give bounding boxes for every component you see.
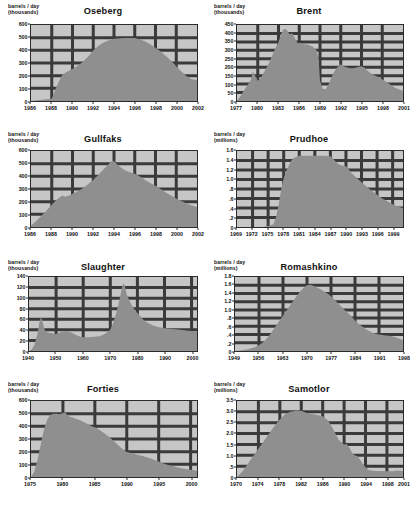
y-tick-mark	[234, 159, 236, 160]
x-tick-mark	[28, 352, 29, 354]
x-tick-mark	[30, 228, 31, 230]
x-tick-label: 1986	[317, 481, 329, 487]
y-tick-mark	[234, 466, 236, 467]
y-tick-label: .2	[229, 215, 233, 221]
x-tick-label: 1995	[356, 105, 368, 111]
y-tick-mark	[28, 24, 30, 25]
x-tick-label: 1990	[121, 481, 133, 487]
x-tick-mark	[366, 478, 367, 480]
x-tick-mark	[301, 478, 302, 480]
y-tick-mark	[28, 50, 30, 51]
y-tick-mark	[232, 309, 234, 310]
x-tick-mark	[404, 478, 405, 480]
x-tick-label: 1980	[56, 481, 68, 487]
x-tick-mark	[331, 352, 332, 354]
x-tick-label: 1985	[89, 481, 101, 487]
y-tick-mark	[26, 276, 28, 277]
plot-area-samotlor: 0.51.01.52.02.53.03.51970197419781982198…	[236, 400, 404, 478]
y-tick-mark	[234, 444, 236, 445]
x-tick-label: 1998	[377, 105, 389, 111]
y-tick-mark	[234, 50, 236, 51]
x-tick-label: 1970	[230, 481, 242, 487]
y-tick-mark	[232, 326, 234, 327]
x-tick-mark	[330, 228, 331, 230]
y-tick-label: .2	[227, 341, 231, 347]
x-tick-mark	[346, 228, 347, 230]
chart-grid: barrels / day (thousands)Oseberg01002003…	[0, 0, 412, 505]
x-tick-mark	[191, 478, 192, 480]
y-tick-label: 1.2	[224, 298, 231, 304]
x-tick-label: 1992	[335, 105, 347, 111]
y-tick-label: 200	[19, 73, 28, 79]
y-tick-label: 60	[20, 316, 26, 322]
x-tick-label: 1978	[273, 481, 285, 487]
y-tick-label: 300	[19, 60, 28, 66]
plot-area-prudhoe: 0.2.4.6.81.01.21.41.61969197219751978198…	[236, 150, 404, 228]
x-tick-mark	[320, 102, 321, 104]
x-tick-mark	[94, 478, 95, 480]
x-tick-label: 1984	[309, 231, 321, 237]
x-tick-mark	[393, 228, 394, 230]
x-tick-label: 1980	[251, 105, 263, 111]
y-tick-label: 1.5	[226, 442, 233, 448]
x-tick-label: 1992	[87, 231, 99, 237]
y-tick-mark	[234, 422, 236, 423]
y-tick-mark	[232, 318, 234, 319]
x-tick-mark	[82, 352, 83, 354]
y-tick-label: 1.4	[224, 290, 231, 296]
x-tick-mark	[362, 102, 363, 104]
y-tick-label: 1.2	[226, 167, 233, 173]
x-tick-mark	[283, 228, 284, 230]
x-tick-label: 1978	[277, 231, 289, 237]
y-tick-mark	[28, 76, 30, 77]
chart-title-samotlor: Samotlor	[206, 384, 412, 394]
x-tick-label: 1990	[66, 231, 78, 237]
y-tick-label: 600	[19, 397, 28, 403]
plot-canvas-prudhoe	[236, 150, 404, 228]
x-tick-mark	[257, 102, 258, 104]
y-tick-mark	[234, 67, 236, 68]
x-tick-mark	[156, 102, 157, 104]
y-tick-label: 1.0	[226, 453, 233, 459]
plot-canvas-samotlor	[236, 400, 404, 478]
y-tick-mark	[232, 284, 234, 285]
x-tick-label: 2002	[192, 231, 204, 237]
y-tick-mark	[28, 189, 30, 190]
x-tick-label: 1982	[295, 481, 307, 487]
x-tick-label: 1974	[252, 481, 264, 487]
y-tick-mark	[26, 297, 28, 298]
x-tick-label: 1998	[398, 355, 410, 361]
x-tick-mark	[55, 352, 56, 354]
y-tick-label: 120	[17, 284, 26, 290]
y-tick-mark	[26, 330, 28, 331]
y-tick-mark	[234, 179, 236, 180]
x-tick-mark	[135, 102, 136, 104]
x-tick-mark	[51, 228, 52, 230]
y-tick-label: .8	[229, 186, 233, 192]
y-tick-label: 3.5	[226, 397, 233, 403]
x-tick-label: 1986	[293, 105, 305, 111]
y-tick-mark	[26, 341, 28, 342]
x-tick-mark	[299, 228, 300, 230]
y-tick-label: 300	[19, 186, 28, 192]
x-tick-mark	[234, 352, 235, 354]
x-tick-mark	[236, 478, 237, 480]
y-tick-mark	[234, 76, 236, 77]
x-tick-mark	[198, 102, 199, 104]
chart-title-prudhoe: Prudhoe	[206, 134, 412, 144]
x-tick-label: 1963	[277, 355, 289, 361]
x-tick-mark	[282, 352, 283, 354]
x-tick-label: 1970	[301, 355, 313, 361]
x-tick-mark	[165, 352, 166, 354]
chart-title-gullfaks: Gullfaks	[0, 134, 206, 144]
x-tick-mark	[156, 228, 157, 230]
y-tick-mark	[234, 58, 236, 59]
x-tick-label: 1998	[150, 105, 162, 111]
x-tick-label: 1972	[246, 231, 258, 237]
x-tick-label: 1977	[325, 355, 337, 361]
y-tick-mark	[234, 24, 236, 25]
y-tick-mark	[232, 276, 234, 277]
x-tick-mark	[377, 228, 378, 230]
x-tick-label: 1996	[372, 231, 384, 237]
y-tick-label: 1.0	[226, 176, 233, 182]
